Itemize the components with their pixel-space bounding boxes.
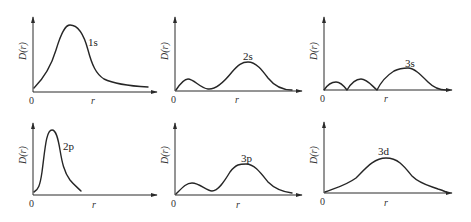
origin-label: 0 — [320, 93, 325, 104]
x-axis-label: r — [236, 199, 240, 210]
orbital-label: 2p — [63, 140, 75, 152]
y-axis-label: D(r) — [17, 146, 29, 165]
panel-2p: 2p D(r) 0 r — [17, 123, 157, 210]
curve-2s — [176, 62, 292, 90]
curve-1s — [34, 25, 148, 88]
panel-1s: 1s D(r) 0 r — [17, 17, 157, 106]
origin-label: 0 — [320, 196, 325, 207]
orbital-label: 2s — [243, 50, 253, 62]
x-axis-label: r — [384, 93, 388, 104]
y-axis-label: D(r) — [159, 146, 171, 165]
x-axis-label: r — [92, 199, 96, 210]
orbital-label: 3p — [241, 152, 253, 164]
origin-label: 0 — [29, 198, 34, 209]
panel-3s: 3s D(r) 0 r — [308, 17, 452, 104]
orbital-radial-distribution-figure: 1s D(r) 0 r 2s D(r) 0 r 3s D(r) 0 r 2p D… — [0, 0, 471, 222]
curve-3s — [324, 68, 446, 90]
panel-2s: 2s D(r) 0 r — [159, 17, 302, 105]
orbital-label: 3d — [378, 145, 390, 157]
origin-label: 0 — [171, 94, 176, 105]
y-axis-label: D(r) — [308, 42, 320, 61]
y-axis-label: D(r) — [308, 146, 320, 165]
x-axis-label: r — [235, 94, 239, 105]
orbital-label: 1s — [88, 36, 98, 48]
x-axis-label: r — [384, 197, 388, 208]
curve-3d — [325, 158, 446, 192]
x-axis-label: r — [91, 95, 95, 106]
origin-label: 0 — [171, 198, 176, 209]
panel-3d: 3d D(r) 0 r — [308, 122, 452, 208]
y-axis-label: D(r) — [159, 42, 171, 61]
origin-label: 0 — [29, 95, 34, 106]
y-axis-label: D(r) — [17, 42, 29, 61]
orbital-label: 3s — [405, 57, 415, 69]
curve-3p — [176, 164, 292, 194]
panel-3p: 3p D(r) 0 r — [159, 123, 302, 210]
